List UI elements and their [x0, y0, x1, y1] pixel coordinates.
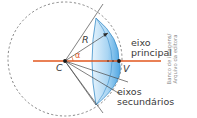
- axis-dot: [107, 60, 108, 61]
- secondary-axes-label-line2: secundários: [117, 97, 174, 107]
- image-credit: Banco de imagens/ Arquivo da editora: [166, 34, 178, 85]
- axis-dot: [112, 60, 113, 61]
- center-point-C: [63, 59, 67, 63]
- vertex-point-V: [117, 59, 121, 63]
- secondary-axis-4: [65, 61, 96, 105]
- vertex-label: V: [123, 64, 130, 74]
- spherical-cap-diagram: C V R α eixo principal eixos secundários…: [0, 0, 197, 118]
- radius-label: R: [82, 35, 89, 45]
- angle-alpha-label: α: [75, 51, 80, 61]
- credit-line2: Arquivo da editora: [172, 34, 178, 85]
- center-label: C: [56, 63, 63, 73]
